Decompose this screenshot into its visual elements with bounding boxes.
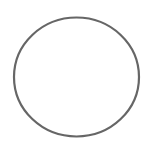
circle-outline bbox=[14, 18, 139, 137]
canvas bbox=[0, 0, 145, 141]
